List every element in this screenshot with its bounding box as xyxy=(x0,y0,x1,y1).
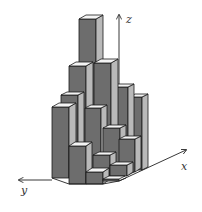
x-axis-label: x xyxy=(181,160,188,173)
z-axis-label: z xyxy=(125,13,132,26)
bar-front-4 xyxy=(110,162,133,176)
y-axis-label: y xyxy=(20,184,28,197)
bar-front-5 xyxy=(86,168,109,184)
bar-3d-diagram: z x y xyxy=(0,0,202,212)
